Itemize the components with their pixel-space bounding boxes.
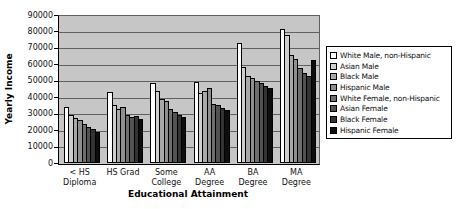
legend-item: White Female, non-Hispanic	[330, 93, 448, 104]
legend-label: Asian Female	[340, 104, 388, 113]
y-tick-label: 30000	[0, 109, 53, 118]
bar-cluster	[102, 15, 145, 163]
bar-chart: Yearly Income 90000800007000060000500004…	[0, 0, 463, 209]
bar-cluster	[189, 15, 232, 163]
y-axis-tick	[54, 147, 58, 148]
bar-cluster	[275, 15, 318, 163]
y-axis-tick	[54, 15, 58, 16]
y-axis-tick	[54, 31, 58, 32]
y-tick-label: 80000	[0, 27, 53, 36]
x-category-label: HS Grad	[101, 168, 144, 187]
y-tick-label: 40000	[0, 93, 53, 102]
legend-swatch	[330, 127, 337, 134]
legend-label: White Male, non-Hispanic	[340, 51, 431, 60]
y-axis-title: Yearly Income	[4, 15, 18, 163]
legend-item: Hispanic Female	[330, 125, 448, 136]
legend-item: Black Female	[330, 114, 448, 125]
legend-label: Black Male	[340, 72, 378, 81]
legend-label: Hispanic Female	[340, 126, 398, 135]
legend-item: Asian Female	[330, 103, 448, 114]
y-tick-label: 50000	[0, 76, 53, 85]
x-category-label: < HSDiploma	[58, 168, 101, 187]
y-tick-label: 90000	[0, 11, 53, 20]
legend-label: Black Female	[340, 115, 387, 124]
legend-label: Hispanic Male	[340, 83, 390, 92]
bar-cluster	[145, 15, 188, 163]
x-category-label: AADegree	[188, 168, 231, 187]
x-category-label: BADegree	[231, 168, 274, 187]
y-tick-label: 20000	[0, 126, 53, 135]
y-axis-tick	[54, 81, 58, 82]
bar	[267, 88, 272, 163]
legend-swatch	[330, 73, 337, 80]
bar	[224, 110, 229, 163]
y-tick-label: 0	[0, 159, 53, 168]
bar-cluster	[59, 15, 102, 163]
legend: White Male, non-HispanicAsian MaleBlack …	[326, 46, 452, 139]
y-axis-tick	[54, 163, 58, 164]
y-tick-label: 60000	[0, 60, 53, 69]
y-tick-label: 70000	[0, 43, 53, 52]
y-axis-tick	[54, 114, 58, 115]
bar	[181, 117, 186, 163]
bar	[311, 60, 316, 163]
legend-swatch	[330, 63, 337, 70]
bar-clusters	[59, 15, 318, 163]
x-category-label: SomeCollege	[145, 168, 188, 187]
legend-swatch	[330, 105, 337, 112]
legend-item: Black Male	[330, 71, 448, 82]
legend-swatch	[330, 95, 337, 102]
bar-cluster	[232, 15, 275, 163]
legend-swatch	[330, 84, 337, 91]
x-axis-title: Educational Attainment	[58, 189, 318, 199]
bar	[138, 119, 143, 163]
legend-item: White Male, non-Hispanic	[330, 50, 448, 61]
legend-swatch	[330, 116, 337, 123]
y-axis-tick	[54, 97, 58, 98]
legend-item: Hispanic Male	[330, 82, 448, 93]
y-axis-tick	[54, 48, 58, 49]
legend-item: Asian Male	[330, 61, 448, 72]
x-axis-category-labels: < HSDiplomaHS GradSomeCollegeAADegreeBAD…	[58, 168, 318, 187]
x-category-label: MADegree	[275, 168, 318, 187]
legend-label: White Female, non-Hispanic	[340, 94, 440, 103]
y-axis-tick	[54, 64, 58, 65]
bar	[95, 132, 100, 163]
legend-label: Asian Male	[340, 62, 379, 71]
y-axis-tick	[54, 130, 58, 131]
y-tick-label: 10000	[0, 142, 53, 151]
legend-swatch	[330, 52, 337, 59]
